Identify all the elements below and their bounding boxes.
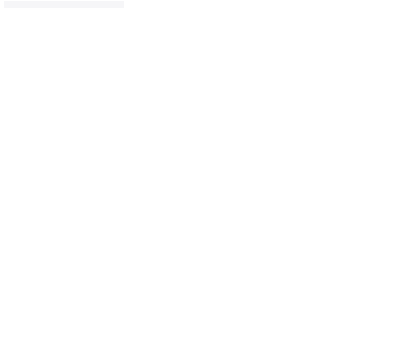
stress-strain-figure: [0, 0, 402, 350]
figure-canvas: [0, 0, 402, 350]
